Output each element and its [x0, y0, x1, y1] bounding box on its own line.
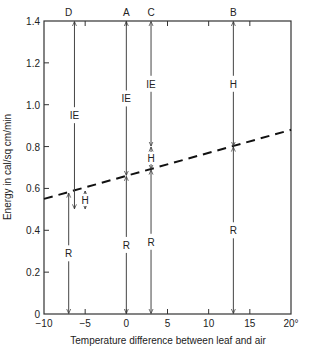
- dashed-balance-line: [44, 130, 291, 199]
- segment-label-h: H: [82, 195, 89, 206]
- segment-label-h: H: [147, 153, 154, 164]
- x-tick-label: 10: [203, 318, 215, 329]
- y-tick-label: 0: [34, 309, 40, 320]
- y-axis-title: Energy in cal/sq cm/min: [2, 114, 13, 220]
- case-label: B: [230, 7, 237, 18]
- segment-label-h: H: [230, 79, 237, 90]
- energy-cases: DRIEHARIECRHIEBRH: [63, 7, 240, 314]
- segment-label-ie: IE: [122, 93, 132, 104]
- y-tick-label: 0.8: [26, 142, 40, 153]
- x-tick-label: 0: [124, 318, 130, 329]
- y-tick-label: 1.4: [26, 16, 40, 27]
- y-tick-label: 1.0: [26, 100, 40, 111]
- segment-label-ie: IE: [146, 79, 156, 90]
- case-label: D: [65, 7, 72, 18]
- y-tick-label: 0.2: [26, 267, 40, 278]
- energy-balance-chart: −10−505101520° 00.20.40.60.81.01.21.4 DR…: [0, 0, 310, 353]
- case-label: C: [147, 7, 154, 18]
- x-axis-ticks: −10−505101520°: [36, 309, 299, 329]
- top-axis-ticks: [85, 21, 250, 26]
- case-label: A: [123, 7, 130, 18]
- segment-label-r: R: [65, 248, 72, 259]
- x-tick-label: 5: [165, 318, 171, 329]
- dashed-line: [44, 130, 291, 199]
- case-c: CRHIE: [145, 7, 157, 314]
- segment-label-r: R: [147, 237, 154, 248]
- x-tick-label: 20°: [283, 318, 298, 329]
- case-d: DRIEH: [63, 7, 91, 314]
- x-tick-label: −5: [79, 318, 91, 329]
- segment-label-r: R: [123, 240, 130, 251]
- segment-label-ie: IE: [70, 110, 80, 121]
- y-tick-label: 1.2: [26, 58, 40, 69]
- case-a: ARIE: [120, 7, 132, 314]
- y-axis-ticks: 00.20.40.60.81.01.21.4: [26, 16, 49, 320]
- segment-label-r: R: [230, 225, 237, 236]
- y-tick-label: 0.6: [26, 183, 40, 194]
- case-b: BRH: [227, 7, 239, 314]
- x-tick-label: 15: [244, 318, 256, 329]
- x-axis-title: Temperature difference between leaf and …: [70, 335, 266, 346]
- plot-frame: [44, 21, 291, 314]
- y-tick-label: 0.4: [26, 225, 40, 236]
